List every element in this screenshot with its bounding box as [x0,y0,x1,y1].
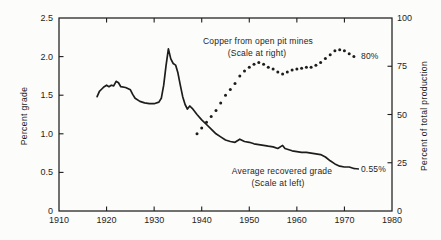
series-copper-open-pit-dot [219,101,222,104]
series-copper-open-pit-dot [243,70,246,73]
series-copper-open-pit-dot [348,52,351,55]
series-copper-open-pit-dot [248,66,251,69]
series-copper-open-pit-dot [319,61,322,64]
series-copper-open-pit-dot [196,132,199,135]
left-axis-title: Percent grade [19,66,29,166]
y-right-tick-label: 50 [397,110,407,120]
series-copper-open-pit-dot [324,57,327,60]
y-left-tick-label: 2.0 [40,52,53,62]
series-copper-open-pit-dot [253,63,256,66]
series-copper-open-pit-dot [262,63,265,66]
plot-frame [59,18,392,211]
series-copper-open-pit-dot [210,115,213,118]
avg-grade-end-value-label: 0.55% [361,164,386,174]
x-tick-label: 1920 [97,215,117,225]
series-copper-open-pit-dot [200,127,203,130]
avg-grade-series-label-line1: Average recovered grade [232,166,332,176]
x-tick-label: 1950 [239,215,259,225]
y-right-tick-label: 0 [397,206,402,216]
series-copper-open-pit-dot [281,73,284,76]
series-avg-recovered-grade [97,49,354,169]
series-copper-open-pit-dot [272,68,275,71]
series-copper-open-pit-dot [224,94,227,97]
series-copper-open-pit-dot [300,67,303,70]
series-copper-open-pit-dot [295,68,298,71]
avg-grade-end-connector [354,169,359,170]
series-copper-open-pit-dot [229,88,232,91]
chart-figure: Percent grade Percent of total productio… [0,0,441,240]
series-copper-open-pit-dot [291,69,294,72]
y-left-tick-label: 0.5 [40,167,53,177]
series-copper-open-pit-dot [310,66,313,69]
series-copper-open-pit-dot [338,48,341,51]
series-copper-open-pit-dot [276,71,279,74]
y-left-tick-label: 1.0 [40,129,53,139]
x-tick-label: 1970 [334,215,354,225]
series-copper-open-pit-dot [352,55,355,58]
right-axis-title: Percent of total production [419,71,429,171]
avg-grade-series-label-line2: (Scale at left) [251,178,304,188]
series-copper-open-pit-dot [205,121,208,124]
series-copper-open-pit-dot [333,49,336,52]
series-copper-open-pit-dot [234,82,237,85]
x-tick-label: 1930 [144,215,164,225]
y-left-tick-label: 2.5 [40,13,53,23]
series-copper-open-pit-dot [305,66,308,69]
series-copper-open-pit-dot [286,71,289,74]
chart-canvas: 1910192019301940195019601970198000.51.01… [0,0,441,240]
series-copper-open-pit-dot [343,49,346,52]
series-copper-open-pit-dot [215,109,218,112]
x-tick-label: 1910 [49,215,69,225]
x-tick-label: 1940 [192,215,212,225]
series-copper-open-pit-dot [238,74,241,77]
x-tick-label: 1980 [382,215,402,225]
series-copper-open-pit-dot [267,66,270,69]
y-right-tick-label: 100 [397,13,412,23]
open-pit-end-value-label: 80% [361,51,379,61]
open-pit-series-label-line2: (Scale at right) [228,48,286,58]
y-right-tick-label: 75 [397,61,407,71]
series-copper-open-pit-dot [314,64,317,67]
y-right-tick-label: 25 [397,158,407,168]
series-copper-open-pit-dot [329,53,332,56]
open-pit-series-label-line1: Copper from open pit mines [203,36,313,46]
y-left-tick-label: 1.5 [40,90,53,100]
y-left-tick-label: 0 [48,206,53,216]
x-tick-label: 1960 [287,215,307,225]
series-copper-open-pit-dot [257,61,260,64]
